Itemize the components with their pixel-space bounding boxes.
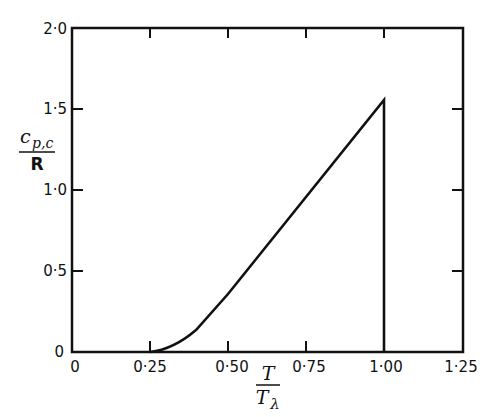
- heat-capacity-curve: [150, 100, 384, 352]
- x-label-denominator: T: [256, 386, 270, 408]
- x-tick-label: 0·25: [133, 358, 166, 376]
- x-label-subscript: λ: [269, 395, 280, 413]
- y-tick-labels: 0 0·5 1·0 1·5 2·0: [43, 20, 67, 361]
- x-tick-label: 1·00: [369, 358, 402, 376]
- y-axis-label: c p,c R: [19, 125, 55, 174]
- y-label-denominator: R: [30, 154, 43, 174]
- y-tick-label: 1·5: [43, 100, 67, 118]
- x-tick-label: 0: [70, 358, 80, 376]
- plot-frame: [72, 28, 463, 352]
- x-tick-label: 0·50: [215, 358, 248, 376]
- y-tick-label: 0: [54, 343, 64, 361]
- x-label-numerator: T: [262, 362, 276, 384]
- chart: 0 0·5 1·0 1·5 2·0 0 0·25 0·50 0·75 1·00 …: [0, 0, 496, 417]
- x-ticks: [150, 28, 384, 352]
- y-label-numerator: c: [20, 125, 31, 147]
- x-tick-label: 0·75: [292, 358, 325, 376]
- y-tick-label: 1·0: [43, 181, 67, 199]
- x-tick-label: 1·25: [444, 358, 477, 376]
- y-label-subscript: p,c: [32, 135, 53, 151]
- y-tick-label: 2·0: [43, 20, 67, 38]
- y-tick-label: 0·5: [43, 262, 67, 280]
- x-axis-label: T T λ: [256, 362, 280, 413]
